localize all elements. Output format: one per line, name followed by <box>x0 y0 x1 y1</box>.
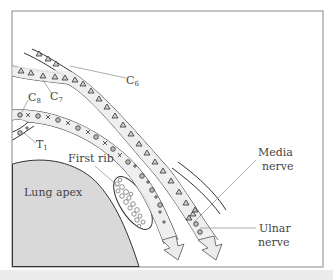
label-ulnar-nerve-line1: Ulnar <box>259 222 291 235</box>
caption-band <box>0 270 333 280</box>
label-lung-apex: Lung apex <box>24 186 83 199</box>
label-median-nerve-line2: nerve <box>262 160 294 173</box>
label-first-rib: First rib <box>68 152 114 165</box>
label-ulnar-nerve-line2: nerve <box>258 236 290 249</box>
label-median-nerve-line1: Media <box>258 146 293 159</box>
brachial-plexus-diagram: C6 C7 C8 T1 First rib Lung apex Media ne… <box>0 0 333 280</box>
